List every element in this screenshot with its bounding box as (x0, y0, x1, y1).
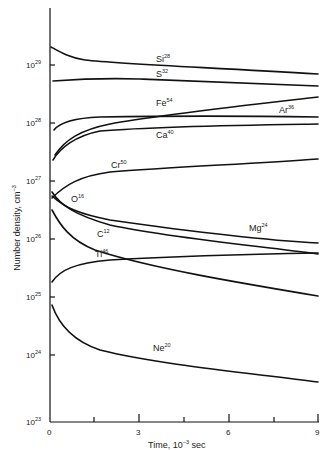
x-tick-label: 9 (315, 428, 320, 437)
curve-s32 (53, 79, 318, 86)
x-tick-label: 6 (226, 428, 231, 437)
curve-ca40 (53, 124, 318, 160)
label-si28: Si28 (156, 53, 170, 64)
y-tick-label: 1025 (26, 291, 41, 302)
x-tick-labels: 0 3 6 9 (47, 428, 320, 437)
y-tick-label: 1023 (26, 416, 41, 427)
series-labels: Si28 S32 Fe54 Ar36 Ca40 Cr50 O16 Mg24 C1… (71, 53, 294, 353)
x-axis-title: Time, 10−3 sec (148, 439, 206, 450)
y-tick-label: 1026 (26, 233, 41, 244)
y-tick-label: 1029 (26, 59, 41, 70)
chart: 1029 1028 1027 1026 1025 1024 1023 0 3 6… (0, 0, 333, 450)
curve-ne20 (52, 305, 318, 382)
label-fe54: Fe54 (156, 97, 173, 108)
label-c12: C12 (97, 228, 110, 239)
label-cr50: Cr50 (111, 159, 127, 170)
y-tick-label: 1024 (26, 349, 41, 360)
curve-o16 (52, 192, 318, 254)
curve-cr50 (52, 159, 318, 198)
label-ne20: Ne20 (153, 342, 171, 353)
label-s32: S32 (156, 68, 168, 79)
label-o16: O16 (71, 193, 84, 204)
label-mg24: Mg24 (249, 222, 268, 233)
y-axis-title: Number density, cm−3 (11, 185, 22, 271)
curve-si28 (51, 47, 318, 74)
x-tick-label: 3 (136, 428, 141, 437)
label-ar36: Ar36 (279, 104, 294, 115)
label-ca40: Ca40 (156, 129, 174, 140)
label-ti46: Ti46 (95, 248, 108, 259)
curve-ti46 (52, 253, 318, 282)
y-tick-labels: 1029 1028 1027 1026 1025 1024 1023 (26, 59, 41, 427)
y-tick-label: 1027 (26, 175, 41, 186)
y-tick-label: 1028 (26, 117, 41, 128)
x-tick-label: 0 (47, 428, 52, 437)
series-curves (51, 47, 318, 382)
